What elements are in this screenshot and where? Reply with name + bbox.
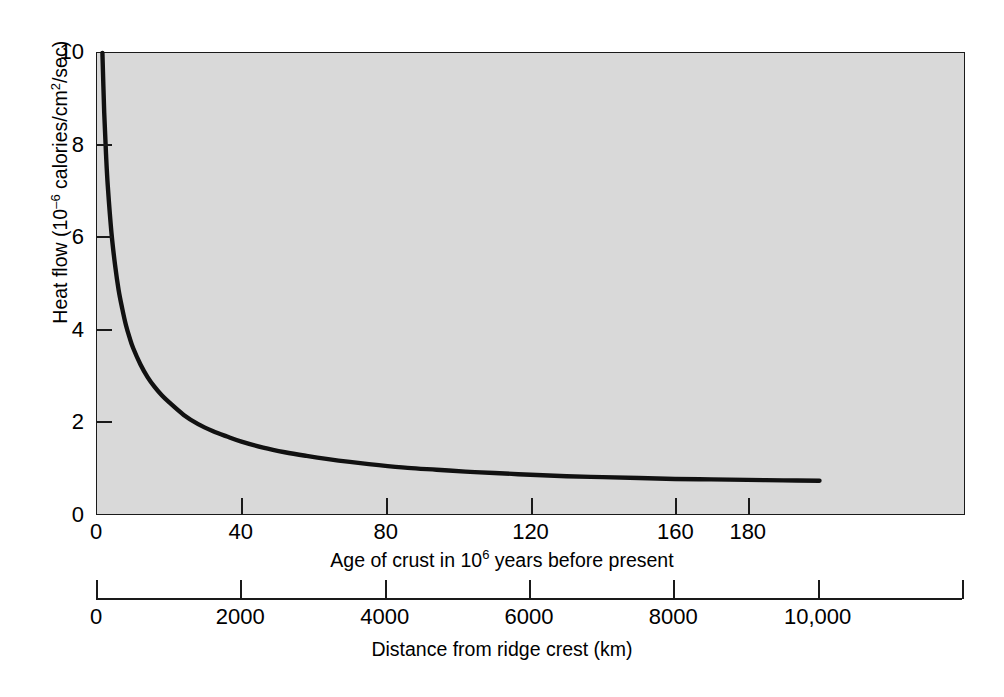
x-axis-age-tick: [531, 498, 533, 515]
plot-area: [96, 52, 965, 515]
x-axis-age-title-post: years before present: [489, 549, 673, 571]
y-axis-title-mid: calories/cm: [49, 90, 71, 194]
y-axis-tick: [96, 329, 112, 331]
x-axis-distance-tick-label: 6000: [459, 606, 599, 628]
y-axis-tick: [96, 236, 112, 238]
x-axis-distance-cap-right: [962, 580, 964, 599]
x-axis-age-title-pre: Age of crust in 10: [330, 549, 482, 571]
x-axis-distance-title: Distance from ridge crest (km): [0, 638, 1004, 661]
x-axis-age-tick-label: 160: [635, 521, 715, 543]
x-axis-age-tick: [748, 498, 750, 515]
heat-flow-figure: 0246810 Heat flow (10–6 calories/cm2/sec…: [0, 0, 1004, 697]
x-axis-distance-tick: [673, 580, 675, 599]
x-axis-age-tick-label: 120: [491, 521, 571, 543]
x-axis-distance-tick: [240, 580, 242, 599]
x-axis-distance-tick: [385, 580, 387, 599]
x-axis-distance-tick-label: 0: [26, 606, 166, 628]
y-axis-title-end: /sec): [49, 41, 71, 83]
x-axis-distance-cap-left: [96, 580, 98, 599]
x-axis-age-tick-label: 180: [708, 521, 788, 543]
y-axis-title-exponent-2: 2: [48, 83, 63, 90]
heat-flow-curve-svg: [97, 53, 964, 514]
x-axis-distance-tick: [529, 580, 531, 599]
x-axis-distance-tick-label: 2000: [170, 606, 310, 628]
x-axis-age-tick-label: 40: [201, 521, 281, 543]
x-axis-distance-tick-label: 8000: [603, 606, 743, 628]
x-axis-age-tick-label: 0: [56, 521, 136, 543]
x-axis-distance-tick-label: 10,000: [748, 606, 888, 628]
y-axis-title-exponent: –6: [48, 194, 63, 208]
y-axis-title: Heat flow (10–6 calories/cm2/sec): [48, 0, 73, 392]
y-axis-tick-label: 2: [44, 411, 84, 433]
x-axis-age-title: Age of crust in 106 years before present: [0, 547, 1004, 572]
x-axis-age-tick: [675, 498, 677, 515]
y-axis-tick: [96, 144, 112, 146]
y-axis-title-pre: Heat flow (10: [49, 209, 71, 324]
x-axis-distance-tick-label: 4000: [315, 606, 455, 628]
x-axis-age-tick: [241, 498, 243, 515]
x-axis-age-tick: [386, 498, 388, 515]
x-axis-age-tick-label: 80: [346, 521, 426, 543]
heat-flow-curve: [102, 53, 819, 481]
y-axis-tick: [96, 421, 112, 423]
x-axis-distance-tick: [818, 580, 820, 599]
